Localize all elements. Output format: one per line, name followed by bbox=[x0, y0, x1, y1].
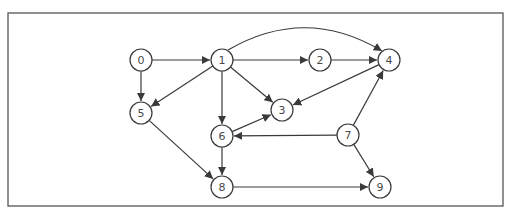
node-4: 4 bbox=[378, 49, 400, 71]
node-label: 2 bbox=[317, 54, 324, 67]
node-label: 0 bbox=[138, 54, 145, 67]
nodes-layer: 0123456789 bbox=[130, 49, 400, 198]
edge-1-to-5 bbox=[151, 66, 213, 106]
node-label: 3 bbox=[279, 104, 286, 117]
edge-1-to-4 bbox=[228, 28, 382, 51]
node-2: 2 bbox=[309, 49, 331, 71]
node-label: 5 bbox=[138, 107, 145, 120]
edge-4-to-3 bbox=[293, 65, 379, 105]
node-1: 1 bbox=[211, 49, 233, 71]
node-label: 9 bbox=[377, 181, 384, 194]
node-6: 6 bbox=[211, 125, 233, 147]
edge-7-to-4 bbox=[353, 71, 383, 126]
edge-7-to-9 bbox=[354, 144, 374, 176]
node-5: 5 bbox=[130, 102, 152, 124]
node-label: 4 bbox=[386, 54, 393, 67]
node-label: 8 bbox=[219, 181, 226, 194]
edges-layer bbox=[141, 28, 383, 187]
node-label: 1 bbox=[219, 54, 226, 67]
edge-1-to-3 bbox=[230, 67, 272, 102]
edge-6-to-3 bbox=[232, 115, 271, 132]
node-3: 3 bbox=[271, 99, 293, 121]
node-label: 7 bbox=[345, 129, 352, 142]
node-8: 8 bbox=[211, 176, 233, 198]
diagram-frame bbox=[8, 13, 503, 206]
edge-5-to-8 bbox=[149, 120, 213, 178]
node-label: 6 bbox=[219, 130, 226, 143]
node-7: 7 bbox=[337, 124, 359, 146]
edge-7-to-6 bbox=[234, 135, 337, 136]
node-0: 0 bbox=[130, 49, 152, 71]
node-9: 9 bbox=[369, 176, 391, 198]
graph-diagram: 0123456789 bbox=[0, 0, 514, 218]
